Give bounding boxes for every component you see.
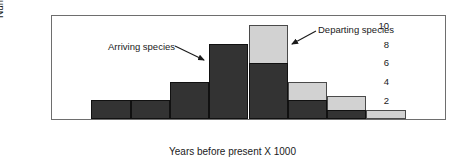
bar-arriving-6-8 xyxy=(170,82,209,119)
bar-arriving-12-14 xyxy=(288,100,327,119)
arriving-species-annotation: Arriving species xyxy=(108,41,175,52)
x-tick-12 xyxy=(288,119,290,120)
x-axis-title: Years before present X 1000 xyxy=(0,146,465,157)
x-tick-6 xyxy=(170,119,172,120)
x-tick-18 xyxy=(406,119,408,120)
x-tick-16 xyxy=(366,119,368,120)
chart-figure: Number of species 02468101214161820 0246… xyxy=(0,0,465,168)
x-tick-14 xyxy=(327,119,329,120)
y-tick-0 xyxy=(51,119,52,120)
departing-species-annotation: Departing species xyxy=(318,24,394,35)
bar-arriving-2-4 xyxy=(91,100,130,119)
bar-arriving-4-6 xyxy=(131,100,170,119)
x-tick-4 xyxy=(131,119,133,120)
x-tick-2 xyxy=(91,119,93,120)
x-tick-8 xyxy=(209,119,211,120)
x-tick-0 xyxy=(52,119,54,120)
bar-departing-16-18 xyxy=(366,110,405,119)
bar-arriving-10-12 xyxy=(249,63,288,119)
bar-arriving-8-10 xyxy=(209,44,248,119)
x-tick-20 xyxy=(444,119,446,120)
bar-arriving-14-16 xyxy=(327,110,366,119)
y-axis-title: Number of species xyxy=(0,0,5,18)
x-tick-10 xyxy=(249,119,251,120)
